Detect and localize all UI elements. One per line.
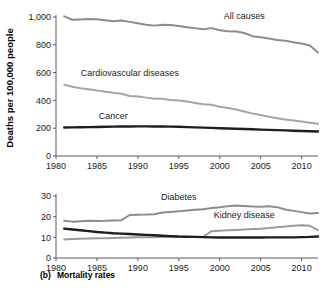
series-label-kidney-disease: Kidney disease bbox=[214, 210, 275, 220]
series-line-cancer bbox=[64, 126, 318, 131]
series-label-cancer: Cancer bbox=[99, 111, 128, 121]
x-tick-label-paneltop-6: 2010 bbox=[292, 161, 312, 171]
x-tick-label-paneltop-4: 2000 bbox=[210, 161, 230, 171]
y-tick-label-paneltop-4: 800 bbox=[36, 40, 51, 50]
series-line-all-causes bbox=[64, 16, 318, 52]
series-label-cardiovascular-diseases: Cardiovascular diseases bbox=[81, 68, 180, 78]
y-tick-label-panelbottom-2: 20 bbox=[41, 212, 51, 222]
series-line-chronic-lower-respiratory-diseases bbox=[64, 229, 318, 238]
figure-caption-text: Mortality rates bbox=[57, 270, 115, 280]
y-tick-label-paneltop-3: 600 bbox=[36, 68, 51, 78]
x-tick-label-panelbottom-6: 2010 bbox=[292, 263, 312, 273]
y-tick-label-paneltop-0: 0 bbox=[46, 151, 51, 161]
series-line-diabetes bbox=[64, 206, 318, 222]
y-tick-label-paneltop-5: 1,000 bbox=[28, 12, 51, 22]
x-tick-label-paneltop-5: 2005 bbox=[251, 161, 271, 171]
mortality-rates-figure: 02004006008001,0001980198519901995200020… bbox=[0, 0, 325, 288]
x-tick-label-panelbottom-2: 1990 bbox=[128, 263, 148, 273]
y-tick-label-paneltop-1: 200 bbox=[36, 123, 51, 133]
y-tick-label-panelbottom-3: 30 bbox=[41, 191, 51, 201]
y-tick-label-paneltop-2: 400 bbox=[36, 96, 51, 106]
series-label-diabetes: Diabetes bbox=[161, 192, 197, 202]
figure-caption-prefix: (b) bbox=[40, 270, 51, 280]
y-tick-label-panelbottom-1: 10 bbox=[41, 233, 51, 243]
x-tick-label-panelbottom-3: 1995 bbox=[169, 263, 189, 273]
x-tick-label-paneltop-1: 1985 bbox=[87, 161, 107, 171]
x-tick-label-paneltop-0: 1980 bbox=[46, 161, 66, 171]
x-tick-label-panelbottom-4: 2000 bbox=[210, 263, 230, 273]
y-tick-label-panelbottom-0: 0 bbox=[46, 253, 51, 263]
y-axis-title: Deaths per 100,000 people bbox=[4, 28, 15, 147]
x-tick-label-panelbottom-5: 2005 bbox=[251, 263, 271, 273]
series-label-all-causes: All causes bbox=[224, 11, 266, 21]
x-tick-label-paneltop-2: 1990 bbox=[128, 161, 148, 171]
x-tick-label-paneltop-3: 1995 bbox=[169, 161, 189, 171]
